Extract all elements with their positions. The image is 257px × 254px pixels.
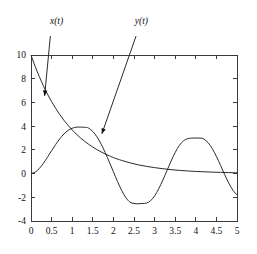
x-tick-label: 1 — [70, 226, 75, 236]
y-tick-label: 4 — [21, 122, 26, 132]
y-tick-label: 2 — [21, 145, 26, 155]
plot-frame — [31, 55, 237, 221]
line-chart: 00.511.522.533.544.55 1086420-2-4 x(t)y(… — [0, 0, 257, 254]
annotation-arrow-line-yt — [102, 36, 136, 134]
y-tick-label: -4 — [18, 216, 26, 226]
x-tick-label: 3 — [152, 226, 157, 236]
x-tick-label: 0 — [29, 226, 34, 236]
series-curve-yt — [31, 127, 237, 204]
x-tick-label: 0.5 — [46, 226, 58, 236]
y-axis-ticks — [31, 55, 237, 221]
x-axis-tick-labels: 00.511.522.533.544.55 — [29, 226, 240, 236]
series-label-yt: y(t) — [134, 16, 148, 27]
y-tick-label: -2 — [18, 193, 26, 203]
x-tick-label: 5 — [235, 226, 240, 236]
x-tick-label: 3.5 — [169, 226, 181, 236]
series-curves — [31, 55, 237, 204]
chart-figure: 00.511.522.533.544.55 1086420-2-4 x(t)y(… — [0, 0, 257, 254]
series-label-xt: x(t) — [49, 16, 63, 27]
annotation-arrow-line-xt — [45, 36, 51, 96]
x-tick-label: 2 — [111, 226, 116, 236]
series-curve-xt — [31, 55, 237, 173]
x-tick-label: 4.5 — [210, 226, 222, 236]
x-tick-label: 4 — [193, 226, 198, 236]
axis-frame — [31, 55, 237, 221]
y-tick-label: 0 — [21, 169, 26, 179]
y-tick-label: 6 — [21, 98, 26, 108]
y-tick-label: 8 — [21, 74, 26, 84]
y-axis-tick-labels: 1086420-2-4 — [17, 50, 27, 226]
x-axis-ticks — [31, 55, 237, 221]
y-tick-label: 10 — [17, 50, 27, 60]
x-tick-label: 2.5 — [128, 226, 140, 236]
series-annotations: x(t)y(t) — [43, 16, 148, 134]
x-tick-label: 1.5 — [87, 226, 99, 236]
annotation-arrowhead-yt — [102, 128, 106, 134]
